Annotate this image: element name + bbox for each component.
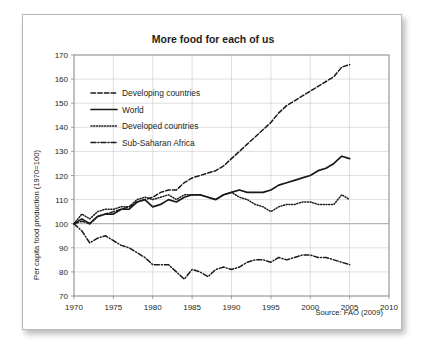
y-tick-label: 140 (55, 123, 69, 132)
legend-label: Developed countries (122, 121, 198, 131)
y-tick-label: 170 (55, 51, 69, 60)
series-layer (74, 65, 350, 279)
y-tick-label: 100 (55, 220, 69, 229)
legend-label: Sub-Saharan Africa (122, 138, 195, 148)
series-line-world (74, 156, 350, 223)
y-tick-label: 120 (55, 172, 69, 181)
y-axis-label: Per capita food production (1970=100) (32, 150, 41, 280)
chart-title: More food for each of us (152, 33, 275, 45)
legend-label: World (122, 105, 144, 115)
y-tick-label: 130 (55, 147, 69, 156)
screenshot-root: More food for each of us Per capita food… (0, 0, 424, 346)
y-tick-label: 150 (55, 99, 69, 108)
series-line-developed-countries (74, 192, 350, 223)
figure-card: More food for each of us Per capita food… (22, 14, 402, 330)
y-tick-label: 160 (55, 75, 69, 84)
y-axis-ticks: 708090100110120130140150160170 (55, 51, 74, 301)
x-tick-label: 1985 (183, 303, 201, 312)
x-tick-label: 1980 (144, 303, 162, 312)
legend-label: Developing countries (122, 88, 200, 98)
y-tick-label: 70 (59, 292, 68, 301)
x-tick-label: 1990 (223, 303, 241, 312)
y-tick-label: 110 (55, 196, 68, 205)
x-tick-label: 1995 (262, 303, 280, 312)
x-tick-label: 1975 (104, 303, 122, 312)
x-tick-label: 1970 (65, 303, 83, 312)
chart-legend: Developing countriesWorldDeveloped count… (91, 88, 200, 148)
series-line-sub-saharan-africa (74, 224, 350, 279)
chart-canvas: More food for each of us Per capita food… (23, 15, 403, 331)
source-note: Source: FAO (2009) (315, 308, 383, 317)
y-tick-label: 80 (59, 268, 68, 277)
y-tick-label: 90 (59, 244, 68, 253)
